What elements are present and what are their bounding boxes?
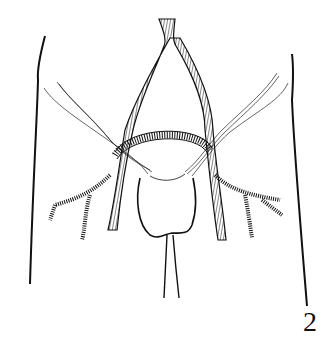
anatomy-illustration [0, 0, 329, 343]
figure-number: 2 [303, 308, 317, 336]
body-outline [30, 36, 307, 306]
bladder [138, 174, 196, 237]
ligament-strands [44, 73, 288, 176]
iliac-branches [50, 175, 282, 240]
urethra [164, 235, 179, 298]
aorta-and-iliac-arteries [108, 19, 226, 240]
figure-canvas: 2 [0, 0, 329, 343]
